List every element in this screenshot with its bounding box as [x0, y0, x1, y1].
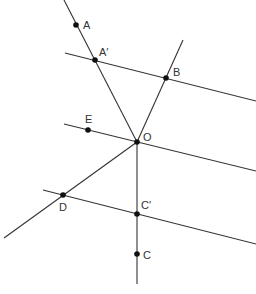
point-b: B [163, 66, 180, 81]
point-label: E [85, 113, 92, 125]
point-label: D [59, 201, 67, 213]
point-dot [134, 139, 140, 145]
line-AO [64, 0, 137, 142]
geometry-diagram: AA′BEODC′C [0, 0, 256, 294]
point-dot [134, 211, 140, 217]
point-dot [92, 57, 98, 63]
point-label: A′ [99, 46, 108, 58]
construction-lines [4, 0, 256, 284]
point-a: A [73, 19, 91, 31]
point-label: C′ [141, 199, 151, 211]
line-OB [137, 40, 183, 142]
point-dot [73, 22, 79, 28]
point-dot [60, 192, 66, 198]
point-label: O [143, 131, 152, 143]
point-dot [134, 251, 140, 257]
point-label: B [173, 66, 180, 78]
point-label: A [83, 19, 91, 31]
point-o: O [134, 131, 152, 145]
point-e: E [85, 113, 92, 133]
line-OD [4, 142, 137, 238]
point-a1: A′ [92, 46, 108, 63]
point-label: C [143, 249, 151, 261]
line-EO [64, 124, 256, 171]
labeled-points: AA′BEODC′C [59, 19, 180, 261]
point-dot [85, 127, 91, 133]
point-dot [163, 75, 169, 81]
